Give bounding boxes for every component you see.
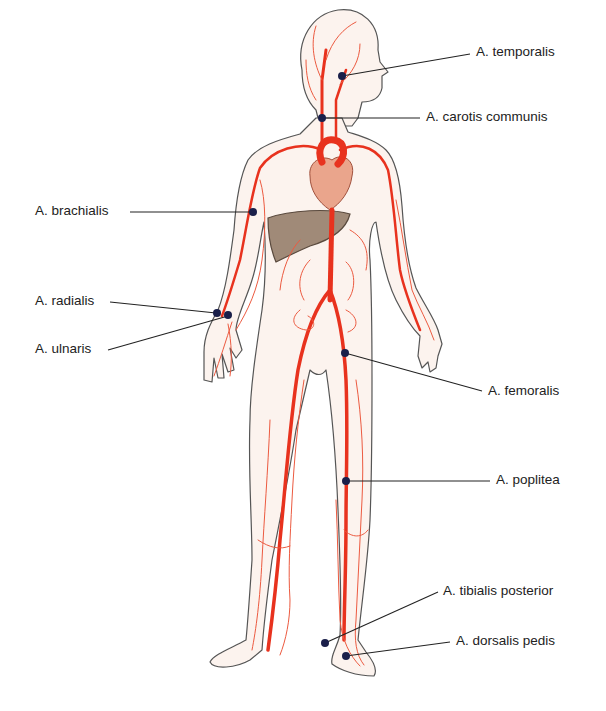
marker-temporalis	[338, 72, 346, 80]
marker-ulnaris	[224, 311, 232, 319]
marker-radialis	[213, 309, 221, 317]
label-brachialis: A. brachialis	[35, 203, 109, 219]
marker-femoralis	[341, 349, 349, 357]
marker-carotis	[318, 114, 326, 122]
label-tibialis-posterior: A. tibialis posterior	[443, 583, 553, 599]
label-carotis-communis: A. carotis communis	[426, 109, 548, 125]
label-femoralis: A. femoralis	[488, 383, 559, 399]
label-temporalis: A. temporalis	[476, 44, 555, 60]
label-poplitea: A. poplitea	[496, 472, 560, 488]
marker-brachialis	[249, 208, 257, 216]
label-dorsalis-pedis: A. dorsalis pedis	[456, 633, 555, 649]
marker-poplitea	[342, 477, 350, 485]
marker-tibialis	[321, 639, 329, 647]
arterial-system-diagram: A. temporalis A. carotis communis A. bra…	[0, 0, 606, 711]
label-ulnaris: A. ulnaris	[35, 341, 91, 357]
label-radialis: A. radialis	[35, 293, 94, 309]
marker-dorsalis	[342, 652, 350, 660]
